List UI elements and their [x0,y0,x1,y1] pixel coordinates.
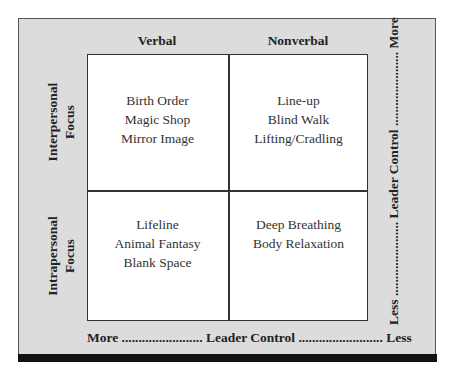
row-label-intrapersonal: Intrapersonal Focus [44,191,78,321]
axis-leader-control-horizontal: More ........................ Leader Con… [87,330,370,346]
cell-item: Blind Walk [229,110,368,129]
row-label-line: Focus [61,191,78,321]
quadrant-grid: Birth Order Magic Shop Mirror Image Line… [87,54,368,321]
cell-item: Blank Space [88,253,227,272]
column-header-verbal: Verbal [87,33,227,49]
grid-divider-horizontal [88,190,367,192]
cell-item: Lifeline [88,215,227,234]
row-label-interpersonal: Interpersonal Focus [44,57,78,187]
row-label-line: Focus [61,57,78,187]
cell-item: Lifting/Cradling [229,129,368,148]
frame-bottom-bar [18,354,437,362]
cell-intrapersonal-verbal: Lifeline Animal Fantasy Blank Space [88,215,227,272]
cell-item: Deep Breathing [229,215,368,234]
cell-item: Animal Fantasy [88,234,227,253]
cell-intrapersonal-nonverbal: Deep Breathing Body Relaxation [229,215,368,253]
cell-item: Magic Shop [88,110,227,129]
cell-item: Birth Order [88,91,227,110]
cell-item: Body Relaxation [229,234,368,253]
cell-interpersonal-verbal: Birth Order Magic Shop Mirror Image [88,91,227,148]
cell-item: Mirror Image [88,129,227,148]
row-label-line: Interpersonal [44,57,61,187]
cell-item: Line-up [229,91,368,110]
axis-leader-control-vertical: Less ...................... Leader Contr… [386,55,402,325]
cell-interpersonal-nonverbal: Line-up Blind Walk Lifting/Cradling [229,91,368,148]
column-header-nonverbal: Nonverbal [228,33,368,49]
row-label-line: Intrapersonal [44,191,61,321]
